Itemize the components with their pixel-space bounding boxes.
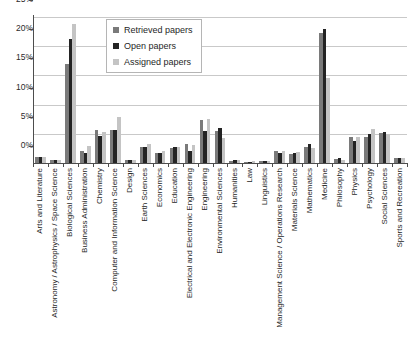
x-axis-tick-mark	[183, 163, 184, 167]
x-axis-category-label: Social Sciences	[381, 168, 389, 224]
x-axis-category-label-slot: Humanities	[227, 168, 242, 354]
x-axis-category-label-slot: Education	[168, 168, 183, 354]
bar-assigned	[87, 146, 91, 163]
x-axis-category-label-slot: Mathematics	[302, 168, 317, 354]
x-axis-category-label-slot: Sports and Recreation	[392, 168, 407, 354]
legend-item: Assigned papers	[113, 57, 193, 67]
bar-assigned	[326, 78, 330, 163]
x-axis-category-label-slot: Arts and Literature	[33, 168, 48, 354]
x-axis-category-label-slot: Design	[123, 168, 138, 354]
x-axis-category-label: Physics	[351, 168, 359, 196]
bar-assigned	[386, 134, 390, 163]
x-axis-category-label: Electrical and Electronic Engineering	[186, 168, 194, 298]
x-axis-tick-mark	[108, 163, 109, 167]
x-axis-tick-mark	[257, 163, 258, 167]
x-axis-category-label: Sports and Recreation	[396, 168, 404, 248]
x-axis-category-label: Materials Science	[291, 168, 299, 231]
bar-group	[347, 17, 362, 163]
x-axis-tick-mark	[138, 163, 139, 167]
x-axis-category-label-slot: Psychology	[362, 168, 377, 354]
x-axis-tick-mark	[287, 163, 288, 167]
legend-item-label: Assigned papers	[124, 57, 191, 67]
legend-item-label: Retrieved papers	[124, 25, 193, 35]
x-axis-tick-mark	[317, 163, 318, 167]
x-axis-tick-mark	[332, 163, 333, 167]
x-axis-tick-mark	[93, 163, 94, 167]
y-axis-line	[33, 15, 34, 165]
bar-group	[332, 17, 347, 163]
bar-assigned	[72, 24, 76, 163]
x-axis-category-labels: Arts and LiteratureAstronomy / Astrophys…	[33, 168, 407, 354]
x-axis-category-label-slot: Electrical and Electronic Engineering	[183, 168, 198, 354]
bar-group	[362, 17, 377, 163]
x-axis-category-label-slot: Medicine	[317, 168, 332, 354]
legend-swatch-assigned-icon	[113, 59, 119, 65]
x-axis-tick-mark	[48, 163, 49, 167]
bar-assigned	[177, 147, 181, 163]
x-axis-category-label: Business Administration	[81, 168, 89, 253]
x-axis-tick-mark	[407, 163, 408, 167]
bar-assigned	[162, 151, 166, 163]
bar-assigned	[102, 132, 106, 163]
y-axis-tick-mark	[29, 0, 33, 1]
x-axis-tick-mark	[168, 163, 169, 167]
x-axis-category-label: Astronomy / Astrophysics / Space Science	[51, 168, 59, 318]
bar-chart: 0%5%10%15%20%25% Arts and LiteratureAstr…	[0, 0, 412, 360]
x-axis-category-label-slot: Linguistics	[257, 168, 272, 354]
bar-group	[33, 17, 48, 163]
legend-item-label: Open papers	[124, 41, 176, 51]
x-axis-category-label: Design	[126, 168, 134, 193]
x-axis-tick-mark	[213, 163, 214, 167]
x-axis-category-label-slot: Physics	[347, 168, 362, 354]
x-axis-category-label: Humanities	[231, 168, 239, 208]
x-axis-tick-mark	[347, 163, 348, 167]
legend-swatch-open-icon	[113, 43, 119, 49]
x-axis-tick-mark	[123, 163, 124, 167]
x-axis-category-label: Arts and Literature	[36, 168, 44, 234]
x-axis-tick-mark	[242, 163, 243, 167]
x-axis-category-label-slot: Social Sciences	[377, 168, 392, 354]
x-axis-category-label-slot: Environmental Sciences	[213, 168, 228, 354]
x-axis-category-label: Psychology	[366, 168, 374, 209]
x-axis-category-label: Philosophy	[336, 168, 344, 207]
x-axis-category-label-slot: Economics	[153, 168, 168, 354]
bar-group	[287, 17, 302, 163]
bar-group	[227, 17, 242, 163]
bar-assigned	[117, 117, 121, 163]
x-axis-category-label: Computer and Information Science	[111, 168, 119, 292]
bar-assigned	[356, 137, 360, 163]
x-axis-category-label: Law	[246, 168, 254, 183]
legend-swatch-retrieved-icon	[113, 27, 119, 33]
x-axis-category-label-slot: Biological Sciences	[63, 168, 78, 354]
bar-group	[392, 17, 407, 163]
bar-group	[377, 17, 392, 163]
bar-group	[242, 17, 257, 163]
bar-assigned	[147, 144, 151, 163]
bar-assigned	[296, 152, 300, 163]
bar-group	[48, 17, 63, 163]
x-axis-tick-mark	[227, 163, 228, 167]
x-axis-category-label-slot: Chemistry	[93, 168, 108, 354]
bar-assigned	[222, 138, 226, 163]
x-axis-category-label: Economics	[156, 168, 164, 207]
bar-group	[212, 17, 227, 163]
x-axis-category-label: Mathematics	[306, 168, 314, 213]
x-axis-tick-mark	[153, 163, 154, 167]
chart-legend: Retrieved papersOpen papersAssigned pape…	[106, 19, 202, 73]
x-axis-category-label: Chemistry	[96, 168, 104, 204]
x-axis-category-label: Management Science / Operations Research	[276, 168, 284, 328]
x-axis-category-label-slot: Computer and Information Science	[108, 168, 123, 354]
x-axis-tick-mark	[377, 163, 378, 167]
x-axis-category-label: Medicine	[321, 168, 329, 200]
bar-group	[63, 17, 78, 163]
bar-group	[302, 17, 317, 163]
x-axis-category-label-slot: Philosophy	[332, 168, 347, 354]
x-axis-tick-mark	[302, 163, 303, 167]
bar-assigned	[371, 129, 375, 163]
x-axis-category-label-slot: Engineering	[198, 168, 213, 354]
x-axis-tick-mark	[362, 163, 363, 167]
x-axis-category-label-slot: Earth Sciences	[138, 168, 153, 354]
bar-assigned	[207, 119, 211, 163]
x-axis-category-label-slot: Materials Science	[287, 168, 302, 354]
x-axis-tick-mark	[198, 163, 199, 167]
